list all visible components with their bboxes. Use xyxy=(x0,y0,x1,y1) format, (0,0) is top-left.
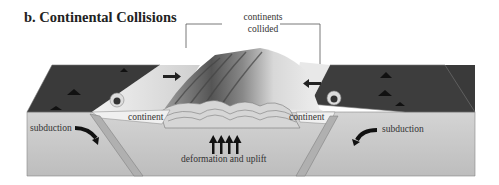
label-deformation-uplift: deformation and uplift xyxy=(181,154,266,165)
label-subduction-right: subduction xyxy=(382,124,424,135)
label-continent-left: continent xyxy=(128,112,163,123)
label-continent-right: continent xyxy=(289,112,324,123)
label-subduction-left: subduction xyxy=(30,123,72,134)
mountain-belt xyxy=(165,48,320,110)
